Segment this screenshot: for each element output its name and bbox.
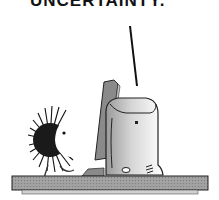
desk <box>12 176 208 194</box>
creature-eye <box>62 131 65 134</box>
keyboard <box>82 168 104 176</box>
computer-tower <box>106 98 163 175</box>
antenna-line <box>130 26 137 86</box>
cartoon-canvas: UNCERTAINTY. <box>0 0 219 200</box>
power-light <box>135 121 138 124</box>
cartoon-illustration <box>0 0 219 200</box>
spiky-creature <box>28 106 74 178</box>
